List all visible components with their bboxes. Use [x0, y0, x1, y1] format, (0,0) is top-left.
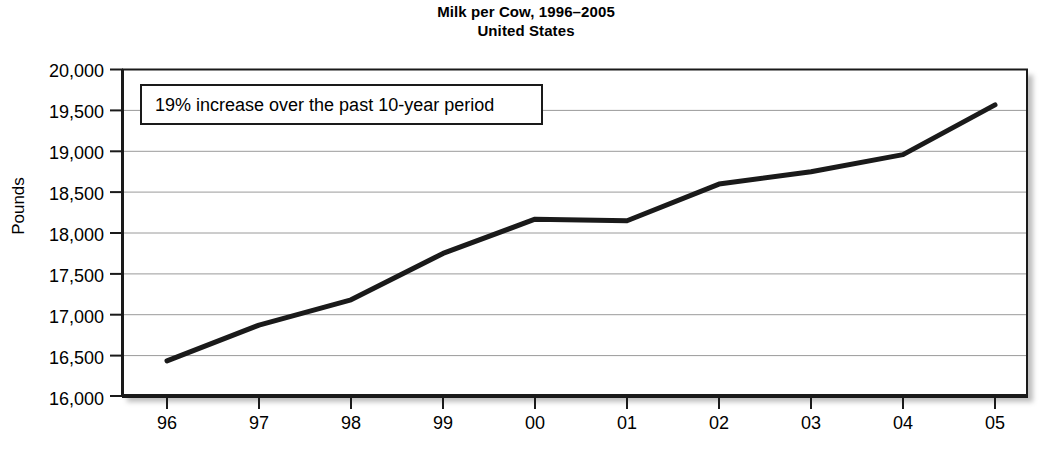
- x-tick-label: 97: [229, 414, 289, 432]
- x-tick-label: 01: [597, 414, 657, 432]
- x-tick-label: 05: [965, 414, 1025, 432]
- x-tick-label: 99: [413, 414, 473, 432]
- x-tick-label: 04: [873, 414, 933, 432]
- x-tick-label: 98: [321, 414, 381, 432]
- chart-figure: Milk per Cow, 1996–2005 United States Po…: [0, 0, 1052, 458]
- plot-area: [0, 0, 1052, 458]
- annotation-box: 19% increase over the past 10-year perio…: [140, 84, 543, 125]
- annotation-text: 19% increase over the past 10-year perio…: [155, 95, 494, 115]
- x-tick-label: 00: [505, 414, 565, 432]
- x-tick-label: 02: [689, 414, 749, 432]
- x-tick-label: 96: [137, 414, 197, 432]
- x-tick-label: 03: [781, 414, 841, 432]
